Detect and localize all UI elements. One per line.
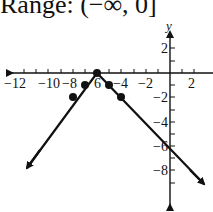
svg-text:2: 2 — [188, 76, 195, 91]
svg-text:−10: −10 — [38, 76, 60, 91]
svg-text:−8: −8 — [153, 163, 168, 178]
right-arrow — [190, 170, 204, 184]
y-axis-label: y — [164, 18, 172, 33]
svg-text:−4: −4 — [113, 76, 128, 91]
svg-text:−8: −8 — [62, 76, 77, 91]
svg-text:−6: −6 — [153, 139, 168, 154]
x-label-minus6: 6 — [94, 76, 101, 91]
svg-text:−4: −4 — [153, 115, 168, 130]
svg-text:−2: −2 — [138, 76, 153, 91]
svg-text:−12: −12 — [4, 76, 26, 91]
svg-text:−2: −2 — [153, 90, 168, 105]
y-tick-labels: 2 −2 −4 −6 −8 — [153, 41, 168, 178]
left-arrow — [27, 150, 40, 168]
svg-text:2: 2 — [161, 41, 168, 56]
graph: −12 −10 −8 −6 −4 −2 2 6 2 −2 −4 −6 −8 y — [0, 0, 213, 212]
y-ticks — [170, 48, 175, 183]
